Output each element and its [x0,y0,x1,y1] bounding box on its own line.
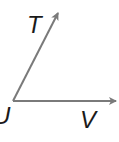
angle-figure [0,0,119,142]
point-label-t: T [27,13,42,37]
angle-diagram: T U V [0,0,119,142]
point-label-v: V [80,108,96,132]
vertex-label-u: U [0,104,10,128]
